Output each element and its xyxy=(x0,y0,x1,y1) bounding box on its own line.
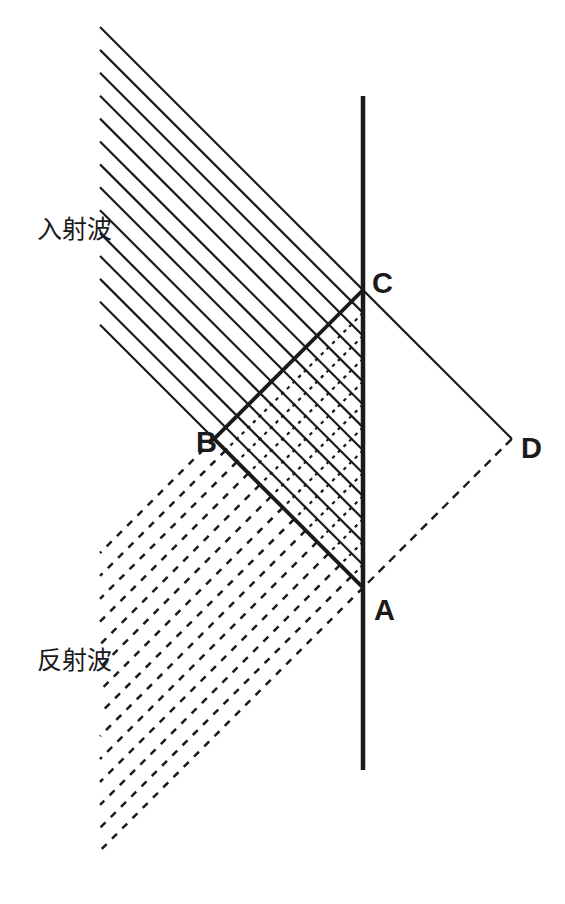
reflected-wavefront-outer-4 xyxy=(100,485,260,645)
reflected-wavefront-outer-3 xyxy=(100,473,249,622)
reflected-wavefront-inner-6 xyxy=(283,427,363,507)
reflected-front-BC-thick xyxy=(214,290,363,439)
reflected-wavefront-inner-4 xyxy=(260,382,363,485)
point-label-D: D xyxy=(521,432,542,464)
reflected-wave-label: 反射波 xyxy=(37,646,112,674)
reflected-wavefront-outer-8 xyxy=(100,530,306,736)
incident-wavefronts-group xyxy=(100,27,512,588)
figure-canvas: 入射波 反射波 C B A D xyxy=(0,0,565,904)
incident-wave-label: 入射波 xyxy=(37,215,112,243)
reflected-wavefront-outer-12 xyxy=(100,576,352,828)
reflected-wavefront-outer-6 xyxy=(100,508,283,691)
incident-front-BA-thick xyxy=(214,439,363,588)
point-label-A: A xyxy=(374,594,395,626)
point-label-C: C xyxy=(372,267,393,299)
reflected-wavefront-outer-9 xyxy=(100,542,317,759)
reflected-wavefronts-group xyxy=(100,439,363,851)
reflected-wavefront-outer-5 xyxy=(100,496,271,667)
reflected-wavefront-outer-1 xyxy=(100,450,226,576)
reflected-wavefront-inner-8 xyxy=(306,473,363,530)
incident-wavefront-0 xyxy=(100,27,512,439)
wave-reflection-figure: 入射波 反射波 C B A D xyxy=(0,0,565,904)
reflected-wavefront-outer-2 xyxy=(100,462,237,599)
reflected-wavefront-outer-11 xyxy=(100,565,340,805)
construction-line-AD-dashed xyxy=(363,439,512,588)
point-label-B: B xyxy=(196,426,217,458)
reflected-wavefronts-interference-group xyxy=(226,313,363,576)
